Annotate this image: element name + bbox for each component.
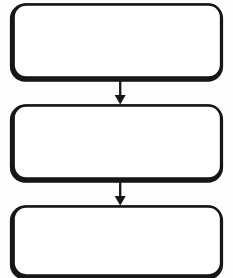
flow-node-box-2[interactable] — [12, 105, 221, 180]
box-2-outline — [14, 105, 222, 178]
flowchart-svg — [0, 0, 233, 278]
flow-node-box-1[interactable] — [12, 4, 221, 79]
arrow-2-head-icon — [115, 196, 126, 206]
flow-connector-arrow-1[interactable] — [115, 79, 126, 105]
flow-connector-arrow-2[interactable] — [115, 180, 126, 206]
box-1-outline — [14, 4, 222, 77]
flow-node-box-3[interactable] — [12, 206, 221, 277]
diagram-canvas — [0, 0, 233, 278]
arrow-1-head-icon — [115, 95, 126, 105]
box-3-outline — [14, 206, 222, 275]
